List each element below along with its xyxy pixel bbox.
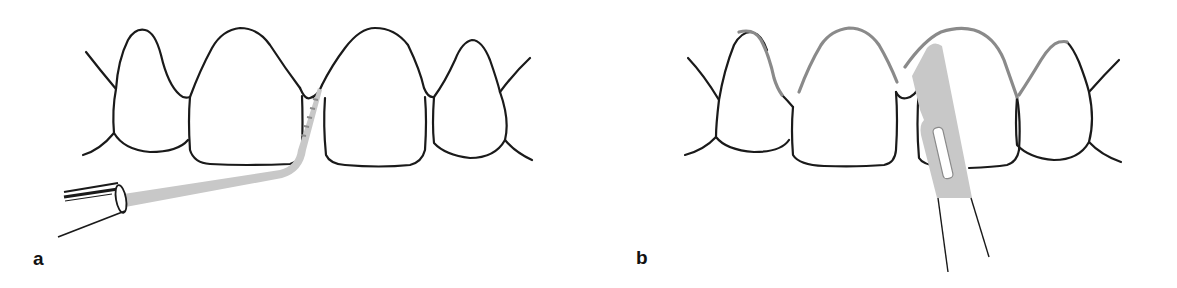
panel-b: b xyxy=(589,0,1177,288)
panel-label-b: b xyxy=(636,247,648,269)
gingival-margin-outline xyxy=(739,28,1067,97)
panel-a: a xyxy=(0,0,588,288)
teeth-with-scalpel-illustration xyxy=(589,0,1177,288)
scalpel-blade-icon xyxy=(912,43,989,272)
teeth-with-probe-illustration xyxy=(0,0,588,288)
panel-label-a: a xyxy=(33,248,44,270)
